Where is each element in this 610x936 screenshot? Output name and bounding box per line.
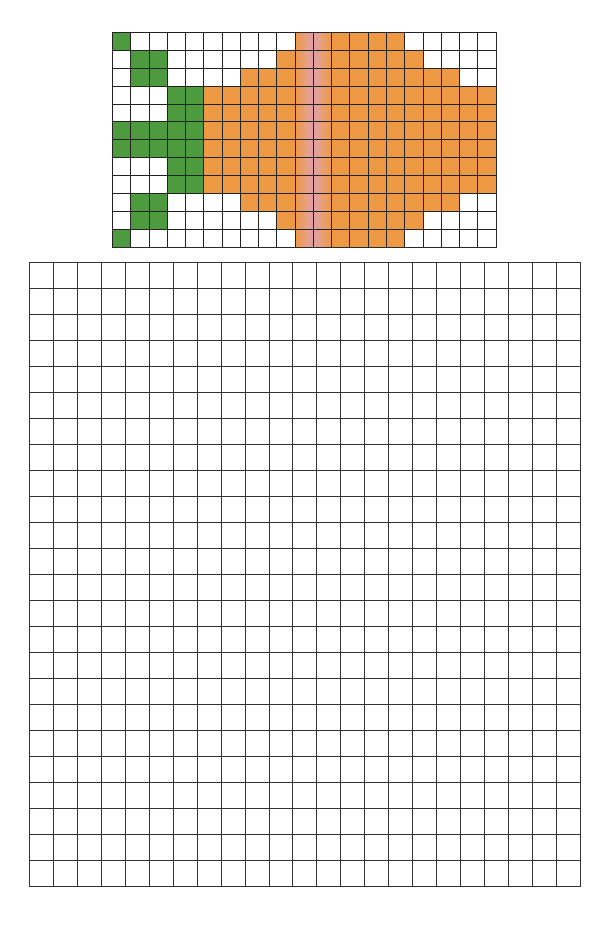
drawing-cell[interactable]	[460, 314, 484, 340]
drawing-cell[interactable]	[460, 470, 484, 496]
drawing-cell[interactable]	[556, 600, 580, 626]
drawing-cell[interactable]	[101, 314, 125, 340]
drawing-cell[interactable]	[29, 574, 53, 600]
drawing-cell[interactable]	[149, 522, 173, 548]
drawing-cell[interactable]	[316, 314, 340, 340]
drawing-cell[interactable]	[221, 730, 245, 756]
drawing-cell[interactable]	[149, 444, 173, 470]
drawing-cell[interactable]	[316, 652, 340, 678]
drawing-cell[interactable]	[77, 418, 101, 444]
drawing-cell[interactable]	[29, 262, 53, 288]
drawing-cell[interactable]	[125, 418, 149, 444]
drawing-cell[interactable]	[125, 600, 149, 626]
drawing-cell[interactable]	[412, 860, 436, 886]
drawing-cell[interactable]	[245, 834, 269, 860]
drawing-cell[interactable]	[316, 600, 340, 626]
drawing-cell[interactable]	[340, 418, 364, 444]
drawing-cell[interactable]	[53, 574, 77, 600]
drawing-cell[interactable]	[316, 756, 340, 782]
drawing-cell[interactable]	[484, 704, 508, 730]
drawing-cell[interactable]	[316, 574, 340, 600]
drawing-cell[interactable]	[77, 470, 101, 496]
drawing-cell[interactable]	[316, 366, 340, 392]
drawing-cell[interactable]	[29, 522, 53, 548]
drawing-cell[interactable]	[173, 730, 197, 756]
drawing-cell[interactable]	[292, 522, 316, 548]
drawing-cell[interactable]	[388, 340, 412, 366]
drawing-cell[interactable]	[340, 340, 364, 366]
drawing-cell[interactable]	[29, 756, 53, 782]
drawing-cell[interactable]	[292, 288, 316, 314]
drawing-cell[interactable]	[484, 418, 508, 444]
drawing-cell[interactable]	[340, 678, 364, 704]
drawing-cell[interactable]	[221, 652, 245, 678]
drawing-cell[interactable]	[197, 366, 221, 392]
drawing-cell[interactable]	[53, 496, 77, 522]
drawing-cell[interactable]	[77, 548, 101, 574]
drawing-cell[interactable]	[101, 340, 125, 366]
drawing-cell[interactable]	[532, 314, 556, 340]
drawing-cell[interactable]	[412, 418, 436, 444]
drawing-cell[interactable]	[245, 808, 269, 834]
drawing-cell[interactable]	[364, 548, 388, 574]
drawing-cell[interactable]	[556, 730, 580, 756]
drawing-cell[interactable]	[412, 366, 436, 392]
drawing-cell[interactable]	[388, 808, 412, 834]
drawing-cell[interactable]	[125, 756, 149, 782]
drawing-cell[interactable]	[53, 756, 77, 782]
drawing-cell[interactable]	[29, 314, 53, 340]
drawing-cell[interactable]	[245, 470, 269, 496]
drawing-cell[interactable]	[508, 262, 532, 288]
drawing-cell[interactable]	[149, 678, 173, 704]
drawing-cell[interactable]	[197, 626, 221, 652]
drawing-cell[interactable]	[556, 262, 580, 288]
drawing-cell[interactable]	[388, 574, 412, 600]
drawing-cell[interactable]	[269, 834, 293, 860]
drawing-cell[interactable]	[292, 392, 316, 418]
drawing-cell[interactable]	[292, 756, 316, 782]
drawing-cell[interactable]	[29, 704, 53, 730]
drawing-cell[interactable]	[77, 444, 101, 470]
drawing-cell[interactable]	[173, 626, 197, 652]
drawing-cell[interactable]	[292, 340, 316, 366]
drawing-cell[interactable]	[436, 314, 460, 340]
drawing-cell[interactable]	[77, 496, 101, 522]
drawing-cell[interactable]	[292, 574, 316, 600]
drawing-cell[interactable]	[532, 782, 556, 808]
drawing-cell[interactable]	[436, 756, 460, 782]
drawing-cell[interactable]	[508, 782, 532, 808]
drawing-cell[interactable]	[125, 860, 149, 886]
drawing-cell[interactable]	[245, 782, 269, 808]
drawing-cell[interactable]	[460, 418, 484, 444]
drawing-cell[interactable]	[77, 574, 101, 600]
drawing-cell[interactable]	[197, 574, 221, 600]
drawing-cell[interactable]	[245, 444, 269, 470]
drawing-cell[interactable]	[532, 366, 556, 392]
drawing-cell[interactable]	[221, 834, 245, 860]
drawing-cell[interactable]	[245, 626, 269, 652]
drawing-cell[interactable]	[364, 522, 388, 548]
drawing-cell[interactable]	[412, 574, 436, 600]
drawing-cell[interactable]	[197, 860, 221, 886]
drawing-cell[interactable]	[77, 366, 101, 392]
drawing-cell[interactable]	[125, 730, 149, 756]
drawing-cell[interactable]	[173, 834, 197, 860]
drawing-cell[interactable]	[269, 756, 293, 782]
drawing-cell[interactable]	[245, 288, 269, 314]
drawing-cell[interactable]	[221, 548, 245, 574]
drawing-cell[interactable]	[484, 782, 508, 808]
drawing-cell[interactable]	[340, 600, 364, 626]
drawing-cell[interactable]	[436, 834, 460, 860]
drawing-cell[interactable]	[460, 678, 484, 704]
drawing-cell[interactable]	[508, 418, 532, 444]
drawing-cell[interactable]	[436, 652, 460, 678]
drawing-cell[interactable]	[29, 366, 53, 392]
drawing-cell[interactable]	[101, 548, 125, 574]
drawing-cell[interactable]	[245, 860, 269, 886]
drawing-cell[interactable]	[460, 574, 484, 600]
drawing-cell[interactable]	[101, 626, 125, 652]
drawing-cell[interactable]	[388, 860, 412, 886]
drawing-cell[interactable]	[484, 574, 508, 600]
drawing-cell[interactable]	[125, 340, 149, 366]
drawing-cell[interactable]	[292, 808, 316, 834]
